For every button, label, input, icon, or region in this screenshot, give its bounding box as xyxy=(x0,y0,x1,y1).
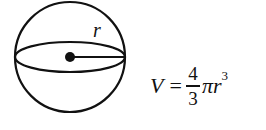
volume-variable: V xyxy=(150,73,163,99)
volume-formula: V = 4 3 π r 3 xyxy=(150,56,228,116)
fraction-bar xyxy=(186,85,200,87)
fraction-denominator: 3 xyxy=(188,89,198,108)
fraction: 4 3 xyxy=(186,64,200,108)
fraction-numerator: 4 xyxy=(187,64,199,83)
radius-variable: r xyxy=(213,73,222,99)
equals-sign: = xyxy=(169,73,181,99)
pi-symbol: π xyxy=(202,73,213,99)
center-point xyxy=(65,52,75,62)
exponent: 3 xyxy=(221,68,228,84)
radius-label: r xyxy=(93,19,101,41)
